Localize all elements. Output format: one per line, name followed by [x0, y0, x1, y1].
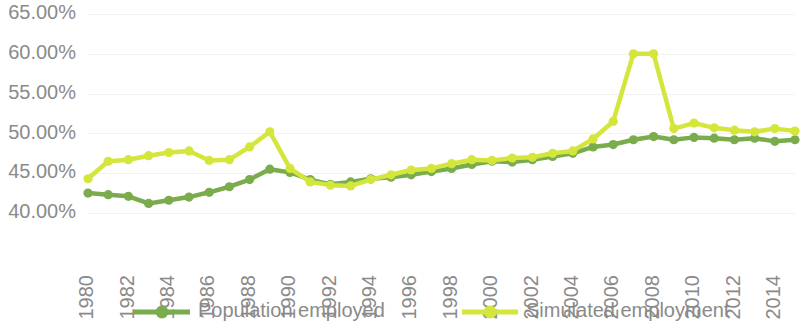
y-axis-tick-labels: 65.00%60.00%55.00%50.00%45.00%40.00% [8, 1, 76, 222]
data-point-marker [487, 156, 496, 165]
data-point-marker [770, 124, 779, 133]
data-point-marker [184, 192, 193, 201]
data-point-marker [588, 142, 597, 151]
data-point-marker [386, 170, 395, 179]
data-point-marker [265, 165, 274, 174]
data-point-marker [326, 181, 335, 190]
y-axis-tick-label: 40.00% [8, 200, 76, 222]
data-point-marker [346, 181, 355, 190]
data-point-marker [205, 156, 214, 165]
data-point-marker [568, 146, 577, 155]
x-axis-tick-label: 1980 [75, 275, 97, 320]
data-series-group [83, 49, 799, 208]
data-point-marker [265, 127, 274, 136]
data-point-marker [730, 126, 739, 135]
data-point-marker [245, 142, 254, 151]
data-point-marker [609, 117, 618, 126]
chart-legend: Population employedSimulated employment [134, 299, 730, 321]
data-point-marker [790, 135, 799, 144]
y-axis-tick-label: 65.00% [8, 1, 76, 23]
data-point-marker [649, 49, 658, 58]
y-axis-tick-label: 55.00% [8, 81, 76, 103]
data-point-marker [285, 164, 294, 173]
data-point-marker [225, 155, 234, 164]
data-point-marker [83, 189, 92, 198]
data-point-marker [689, 118, 698, 127]
x-axis-tick-label: 1998 [439, 275, 461, 320]
data-point-marker [710, 123, 719, 132]
series-1 [83, 132, 799, 208]
data-point-marker [730, 135, 739, 144]
legend-item-2[interactable]: Simulated employment [462, 299, 730, 321]
data-point-marker [407, 165, 416, 174]
legend-label: Simulated employment [526, 299, 730, 321]
data-point-marker [629, 135, 638, 144]
employment-line-chart: 65.00%60.00%55.00%50.00%45.00%40.00% 198… [0, 0, 803, 336]
data-point-marker [669, 135, 678, 144]
data-point-marker [124, 192, 133, 201]
data-point-marker [104, 190, 113, 199]
data-point-marker [790, 126, 799, 135]
data-point-marker [184, 146, 193, 155]
series-line [88, 54, 795, 186]
y-axis-tick-label: 60.00% [8, 41, 76, 63]
data-point-marker [245, 175, 254, 184]
legend-marker-icon [156, 306, 169, 319]
data-point-marker [306, 177, 315, 186]
x-axis-tick-label: 1996 [398, 275, 420, 320]
y-axis-tick-label: 50.00% [8, 121, 76, 143]
data-point-marker [548, 149, 557, 158]
data-point-marker [124, 155, 133, 164]
data-point-marker [649, 132, 658, 141]
data-point-marker [588, 134, 597, 143]
data-point-marker [225, 182, 234, 191]
data-point-marker [447, 159, 456, 168]
chart-canvas: 65.00%60.00%55.00%50.00%45.00%40.00% 198… [0, 0, 803, 336]
data-point-marker [689, 133, 698, 142]
data-point-marker [205, 188, 214, 197]
data-point-marker [508, 153, 517, 162]
data-point-marker [83, 174, 92, 183]
data-point-marker [104, 157, 113, 166]
series-line [88, 137, 795, 204]
data-point-marker [427, 164, 436, 173]
data-point-marker [710, 134, 719, 143]
data-point-marker [528, 153, 537, 162]
data-point-marker [750, 127, 759, 136]
data-point-marker [629, 49, 638, 58]
data-point-marker [467, 155, 476, 164]
gridlines [88, 15, 795, 214]
data-point-marker [164, 196, 173, 205]
data-point-marker [770, 137, 779, 146]
legend-label: Population employed [198, 299, 385, 321]
y-axis-tick-label: 45.00% [8, 160, 76, 182]
legend-marker-icon [484, 306, 497, 319]
data-point-marker [164, 148, 173, 157]
data-point-marker [144, 199, 153, 208]
data-point-marker [366, 175, 375, 184]
data-point-marker [669, 124, 678, 133]
x-axis-tick-label: 2014 [762, 275, 784, 320]
data-point-marker [144, 151, 153, 160]
data-point-marker [609, 140, 618, 149]
